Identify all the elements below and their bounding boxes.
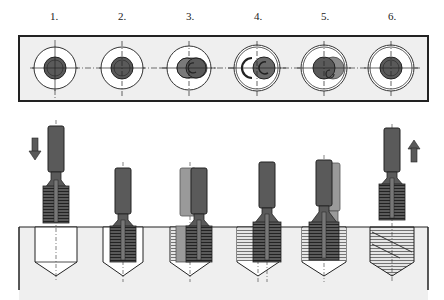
side-step-2 (103, 162, 143, 282)
arrow-down-icon (29, 138, 41, 160)
side-step-6 (370, 124, 420, 282)
side-step-4 (237, 162, 281, 282)
workpiece-section (19, 227, 428, 300)
side-step-1 (29, 120, 77, 280)
process-diagram (0, 0, 444, 300)
side-step-5 (302, 155, 346, 282)
arrow-up-icon (408, 140, 420, 162)
top-view-panel (19, 36, 428, 101)
side-step-3 (170, 162, 212, 282)
